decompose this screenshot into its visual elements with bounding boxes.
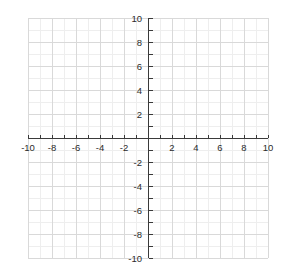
- x-tick-label: 6: [217, 142, 222, 153]
- x-tick-label: 2: [169, 142, 174, 153]
- x-tick-label: -8: [48, 142, 56, 153]
- y-tick-label: 2: [137, 109, 142, 120]
- x-tick-label: -10: [21, 142, 35, 153]
- x-tick-label: 8: [241, 142, 246, 153]
- y-tick-label: -4: [134, 181, 142, 192]
- x-tick-label: -2: [120, 142, 128, 153]
- coordinate-plane-figure: -10-8-6-4-2246810 108642-2-4-6-8-10: [0, 0, 281, 269]
- y-tick-label: -10: [128, 253, 142, 264]
- y-tick-label: -2: [134, 157, 142, 168]
- coordinate-plane-svg: -10-8-6-4-2246810 108642-2-4-6-8-10: [0, 0, 281, 269]
- y-tick-label: -6: [134, 205, 142, 216]
- y-tick-label: -8: [134, 229, 142, 240]
- y-tick-label: 6: [137, 61, 142, 72]
- y-tick-label: 4: [137, 85, 142, 96]
- x-tick-label: -6: [72, 142, 80, 153]
- y-tick-label: 8: [137, 37, 142, 48]
- x-tick-label: 4: [193, 142, 198, 153]
- x-tick-label: 10: [263, 142, 274, 153]
- y-tick-label: 10: [131, 13, 142, 24]
- x-tick-label: -4: [96, 142, 104, 153]
